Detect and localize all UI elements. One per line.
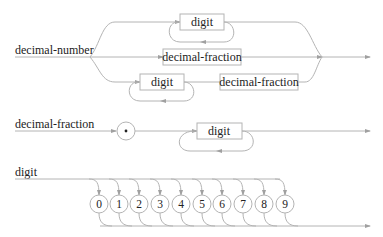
digit-label: 0	[96, 198, 102, 210]
nonterminal-label: digit	[151, 75, 174, 89]
digit-choices: 0 1 2 3	[89, 179, 298, 226]
rule-digit: digit 0 1 2	[15, 165, 370, 226]
nonterminal-label: decimal-fraction	[219, 75, 298, 89]
digit-label: 8	[261, 198, 267, 210]
nonterminal-label: digit	[208, 124, 231, 138]
loop-arrow	[216, 149, 222, 153]
digit-label: 6	[219, 198, 225, 210]
dot-glyph	[125, 130, 128, 133]
choice-4: 4	[171, 179, 194, 226]
digit-label: 9	[282, 198, 288, 210]
rule-name-digit: digit	[15, 165, 38, 179]
loop-arrow	[200, 40, 206, 44]
digit-label: 1	[116, 198, 122, 210]
choice-6: 6	[212, 179, 235, 226]
digit-label: 5	[199, 198, 205, 210]
rule-name-decimal-fraction: decimal-fraction	[15, 117, 94, 131]
rule-decimal-fraction: decimal-fraction digit	[15, 117, 370, 153]
choice-0: 0	[89, 179, 112, 226]
choice-7: 7	[233, 179, 256, 226]
path-merge-bottom	[298, 57, 322, 82]
digit-label: 4	[178, 198, 184, 210]
choice-8: 8	[254, 179, 277, 226]
choice-3: 3	[150, 179, 173, 226]
digit-label: 2	[136, 198, 142, 210]
loop-arrow	[160, 99, 166, 103]
rule-decimal-number: decimal-number decimal-fraction digit di…	[15, 14, 370, 103]
choice-2: 2	[129, 179, 152, 226]
rule-name-decimal-number: decimal-number	[15, 43, 94, 57]
digit-label: 3	[157, 198, 163, 210]
nonterminal-label: digit	[191, 15, 214, 29]
digit-label: 7	[240, 198, 246, 210]
path-branch-bottom	[90, 57, 140, 82]
railroad-diagram: decimal-number decimal-fraction digit di…	[0, 0, 383, 237]
choice-1: 1	[109, 179, 132, 226]
choice-9: 9	[275, 179, 298, 226]
choice-5: 5	[192, 179, 215, 226]
nonterminal-label: decimal-fraction	[162, 50, 241, 64]
